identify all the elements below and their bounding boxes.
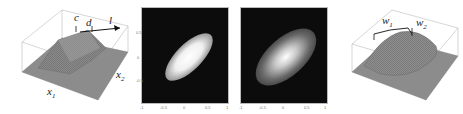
surface-right-graphic [340, 0, 463, 114]
x-tick: 0.5 [205, 105, 211, 110]
surface-plot-right: w1 w2 [340, 0, 463, 114]
surface-left-graphic [0, 0, 132, 114]
heatmap-1-image [141, 7, 229, 104]
x-tick: 1 [324, 105, 326, 110]
heatmap-panel-1: 0.5 0 -0.5 -1 -0.5 0 0.5 1 [136, 0, 233, 114]
y-tick: -0.5 [136, 78, 143, 83]
x-tick: -0.5 [160, 105, 167, 110]
heatmap-2-blob [246, 18, 326, 96]
x-tick: -1 [239, 105, 243, 110]
heatmap-2-image [240, 7, 328, 104]
label-w2: w2 [416, 16, 427, 31]
label-c: c [74, 11, 79, 23]
label-w1: w1 [382, 14, 393, 29]
x-tick: 0 [282, 105, 284, 110]
x-tick: 1 [226, 105, 228, 110]
y-tick: 0 [137, 55, 139, 60]
heatmap-1-band [158, 26, 220, 88]
x-tick: -1 [140, 105, 144, 110]
x-tick: 0 [183, 105, 185, 110]
axis-label-x2: x2 [116, 68, 124, 83]
label-l: l [109, 14, 112, 26]
label-d: d [86, 16, 92, 28]
y-tick: 0.5 [136, 30, 142, 35]
x-tick: -0.5 [259, 105, 266, 110]
surface-plot-left: c d l x2 x1 [0, 0, 132, 114]
x-tick: 0.5 [304, 105, 310, 110]
axis-label-x1: x1 [47, 85, 55, 100]
heatmap-panel-2: -1 -0.5 0 0.5 1 [236, 0, 333, 114]
